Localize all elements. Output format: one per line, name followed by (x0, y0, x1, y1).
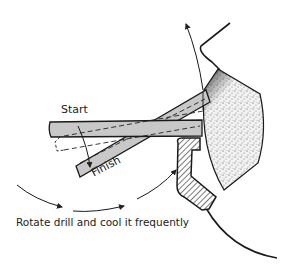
caption-text: Rotate drill and cool it frequently (16, 216, 189, 228)
start-label: Start (61, 103, 88, 116)
grinding-wheel (203, 69, 263, 190)
wheel-rotation-arrow (186, 24, 203, 90)
